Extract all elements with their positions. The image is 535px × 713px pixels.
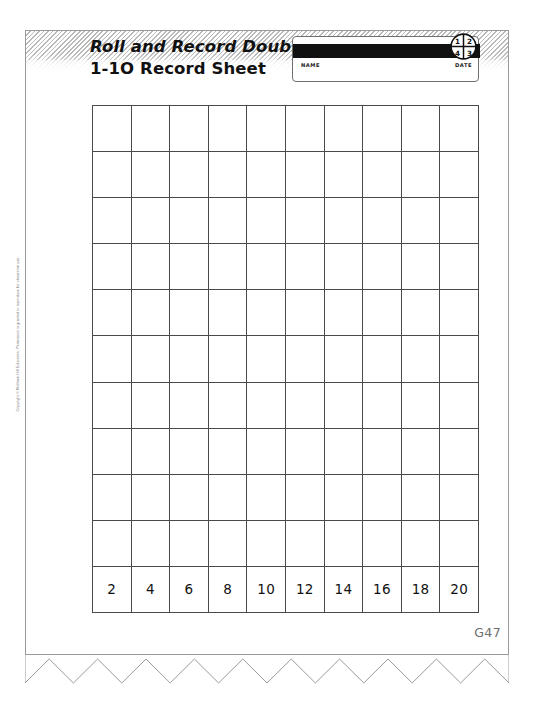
grid-cell[interactable]: [247, 336, 286, 382]
grid-cell[interactable]: [93, 383, 132, 429]
grid-cell[interactable]: [170, 152, 209, 198]
grid-cell[interactable]: [209, 152, 248, 198]
grid-cell[interactable]: [325, 106, 364, 152]
grid-cell[interactable]: [209, 521, 248, 567]
grid-cell[interactable]: [402, 475, 441, 521]
grid-cell[interactable]: [440, 383, 479, 429]
grid-cell[interactable]: [363, 198, 402, 244]
grid-cell[interactable]: [170, 475, 209, 521]
grid-cell[interactable]: [170, 521, 209, 567]
grid-cell[interactable]: [402, 244, 441, 290]
grid-cell[interactable]: [209, 429, 248, 475]
grid-cell[interactable]: [363, 521, 402, 567]
grid-cell[interactable]: [363, 244, 402, 290]
grid-cell[interactable]: [286, 290, 325, 336]
grid-cell[interactable]: [247, 198, 286, 244]
grid-cell[interactable]: [440, 290, 479, 336]
grid-cell[interactable]: [93, 198, 132, 244]
grid-cell[interactable]: [363, 106, 402, 152]
grid-cell[interactable]: [209, 290, 248, 336]
grid-cell[interactable]: [325, 521, 364, 567]
record-grid[interactable]: 2468101214161820: [92, 105, 479, 613]
grid-cell[interactable]: [286, 244, 325, 290]
grid-cell[interactable]: [132, 244, 171, 290]
grid-cell[interactable]: [93, 290, 132, 336]
grid-cell[interactable]: [325, 290, 364, 336]
grid-cell[interactable]: [440, 106, 479, 152]
grid-cell[interactable]: [170, 244, 209, 290]
grid-cell[interactable]: [363, 290, 402, 336]
grid-cell[interactable]: [132, 475, 171, 521]
grid-cell[interactable]: [170, 383, 209, 429]
grid-cell[interactable]: [93, 244, 132, 290]
grid-cell[interactable]: [363, 383, 402, 429]
grid-cell[interactable]: [440, 244, 479, 290]
grid-cell[interactable]: [132, 106, 171, 152]
grid-cell[interactable]: [402, 290, 441, 336]
grid-cell[interactable]: [325, 336, 364, 382]
grid-cell[interactable]: [286, 152, 325, 198]
grid-cell[interactable]: [363, 429, 402, 475]
grid-cell[interactable]: [440, 521, 479, 567]
grid-cell[interactable]: [286, 198, 325, 244]
grid-cell[interactable]: [286, 106, 325, 152]
grid-cell[interactable]: [440, 429, 479, 475]
grid-cell[interactable]: [440, 336, 479, 382]
grid-cell[interactable]: [402, 429, 441, 475]
grid-cell[interactable]: [170, 429, 209, 475]
grid-cell[interactable]: [170, 198, 209, 244]
grid-cell[interactable]: [132, 383, 171, 429]
grid-cell[interactable]: [170, 106, 209, 152]
grid-cell[interactable]: [363, 336, 402, 382]
grid-cell[interactable]: [402, 198, 441, 244]
grid-cell[interactable]: [402, 106, 441, 152]
grid-cell[interactable]: [247, 429, 286, 475]
grid-cell[interactable]: [170, 336, 209, 382]
grid-cell[interactable]: [209, 106, 248, 152]
grid-cell[interactable]: [93, 336, 132, 382]
grid-cell[interactable]: [440, 152, 479, 198]
grid-cell[interactable]: [170, 290, 209, 336]
grid-cell[interactable]: [325, 198, 364, 244]
grid-cell[interactable]: [286, 521, 325, 567]
grid-cell[interactable]: [93, 106, 132, 152]
grid-cell[interactable]: [132, 290, 171, 336]
grid-cell[interactable]: [325, 152, 364, 198]
grid-cell[interactable]: [132, 429, 171, 475]
grid-cell[interactable]: [247, 152, 286, 198]
grid-cell[interactable]: [247, 383, 286, 429]
grid-cell[interactable]: [286, 475, 325, 521]
grid-cell[interactable]: [93, 521, 132, 567]
grid-cell[interactable]: [132, 336, 171, 382]
grid-cell[interactable]: [440, 475, 479, 521]
grid-cell[interactable]: [325, 429, 364, 475]
grid-cell[interactable]: [209, 336, 248, 382]
grid-cell[interactable]: [93, 152, 132, 198]
grid-cell[interactable]: [209, 198, 248, 244]
grid-cell[interactable]: [402, 152, 441, 198]
grid-cell[interactable]: [363, 475, 402, 521]
grid-cell[interactable]: [247, 475, 286, 521]
grid-cell[interactable]: [209, 475, 248, 521]
grid-cell[interactable]: [286, 336, 325, 382]
grid-cell[interactable]: [440, 198, 479, 244]
grid-cell[interactable]: [209, 244, 248, 290]
grid-cell[interactable]: [247, 244, 286, 290]
grid-cell[interactable]: [247, 106, 286, 152]
grid-cell[interactable]: [325, 383, 364, 429]
grid-cell[interactable]: [402, 336, 441, 382]
grid-cell[interactable]: [325, 244, 364, 290]
grid-cell[interactable]: [132, 198, 171, 244]
grid-cell[interactable]: [93, 429, 132, 475]
grid-cell[interactable]: [132, 152, 171, 198]
grid-cell[interactable]: [402, 383, 441, 429]
grid-cell[interactable]: [247, 290, 286, 336]
grid-cell[interactable]: [93, 475, 132, 521]
grid-cell[interactable]: [286, 383, 325, 429]
grid-cell[interactable]: [247, 521, 286, 567]
grid-cell[interactable]: [363, 152, 402, 198]
grid-cell[interactable]: [402, 521, 441, 567]
grid-cell[interactable]: [325, 475, 364, 521]
grid-cell[interactable]: [132, 521, 171, 567]
grid-cell[interactable]: [286, 429, 325, 475]
